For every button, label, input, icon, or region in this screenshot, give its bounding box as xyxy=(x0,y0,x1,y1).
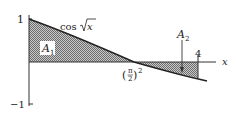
y-tick-label-1: 1 xyxy=(17,13,24,26)
a2-subscript: 2 xyxy=(185,35,189,43)
x-mark-label-4: 4 xyxy=(195,48,201,59)
function-label-arg: x xyxy=(87,21,93,32)
zero-label-exponent: 2 xyxy=(138,67,142,75)
y-tick-label-neg1: −1 xyxy=(10,99,25,110)
a1-subscript: 1 xyxy=(50,49,54,57)
a2-label: A xyxy=(176,28,185,41)
zero-label-open-paren: ( xyxy=(122,69,126,82)
zero-label-denominator: 2 xyxy=(128,75,132,83)
function-label-cos: cos xyxy=(60,21,77,32)
zero-crossing-label: ( π 2 ) 2 xyxy=(122,67,142,83)
function-label: cos x xyxy=(60,19,96,32)
cos-sqrt-x-diagram: 1 −1 cos x A 1 A 2 4 x ( π 2 ) 2 xyxy=(0,0,237,114)
zero-label-close-paren: ) xyxy=(133,69,137,82)
a1-label: A xyxy=(41,42,50,55)
x-axis-label: x xyxy=(222,56,228,67)
